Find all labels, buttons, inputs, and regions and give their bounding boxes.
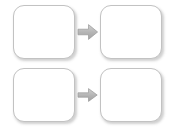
target-node-label — [101, 6, 161, 10]
target-node-row-0[interactable] — [100, 5, 162, 59]
source-node-row-1[interactable] — [13, 68, 75, 122]
arrow-right-icon — [77, 23, 99, 41]
arrow-right-icon — [77, 86, 99, 104]
source-node-label — [14, 6, 74, 10]
diagram-row — [0, 67, 178, 125]
target-node-label — [101, 69, 161, 73]
source-node-row-0[interactable] — [13, 5, 75, 59]
diagram-row — [0, 4, 178, 62]
diagram-canvas — [0, 0, 178, 131]
source-node-label — [14, 69, 74, 73]
target-node-row-1[interactable] — [100, 68, 162, 122]
